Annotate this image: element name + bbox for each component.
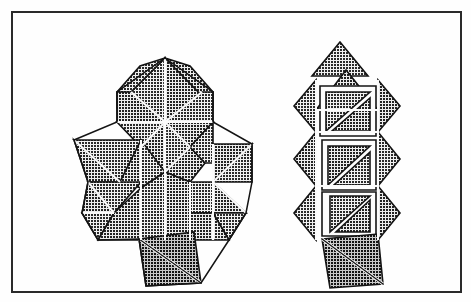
- lower-triangle-right-a: [190, 182, 213, 213]
- figure-canvas: [0, 0, 471, 302]
- trunk-group: [139, 232, 201, 286]
- lower-triangle-center-right: [165, 172, 190, 240]
- illustration-svg: [0, 0, 471, 302]
